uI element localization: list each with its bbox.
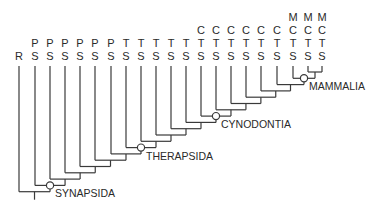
tip-label: P xyxy=(31,37,38,49)
tip-label: C xyxy=(212,24,220,36)
tip-label: M xyxy=(303,11,312,23)
tip-label: T xyxy=(183,37,190,49)
tip-label: T xyxy=(258,37,265,49)
tip-label: S xyxy=(227,50,234,62)
tip-label: S xyxy=(289,50,296,62)
tip-label: C xyxy=(318,24,326,36)
clade-label-synapsida: SYNAPSIDA xyxy=(55,187,115,199)
tip-label: T xyxy=(198,37,205,49)
tip-label: T xyxy=(290,37,297,49)
tip-label: T xyxy=(123,37,130,49)
tip-label: P xyxy=(46,37,53,49)
clade-label-therapsida: THERAPSIDA xyxy=(146,150,213,162)
tip-label: S xyxy=(318,50,325,62)
tip-label: T xyxy=(243,37,250,49)
tip-label: C xyxy=(304,24,312,36)
tip-label: T xyxy=(168,37,175,49)
tip-label: C xyxy=(242,24,250,36)
tip-label: M xyxy=(288,11,297,23)
cladogram: RPSPSPSPSPSPSTSTSTSTSTSCTSCTSCTSCTSCTSCT… xyxy=(0,0,380,214)
tip-label: T xyxy=(305,37,312,49)
tip-label: S xyxy=(61,50,68,62)
tip-label: S xyxy=(167,50,174,62)
tip-label: R xyxy=(15,50,23,62)
tip-label: C xyxy=(273,24,281,36)
tip-label: S xyxy=(304,50,311,62)
tip-label: S xyxy=(257,50,264,62)
tip-label: T xyxy=(274,37,281,49)
clade-node-marker xyxy=(46,182,53,189)
tip-label: P xyxy=(107,37,114,49)
tree-branches xyxy=(19,66,322,200)
tip-label: S xyxy=(137,50,144,62)
tip-label: T xyxy=(153,37,160,49)
tip-label: S xyxy=(122,50,129,62)
tip-label: S xyxy=(212,50,219,62)
tip-label: S xyxy=(76,50,83,62)
tip-label: S xyxy=(242,50,249,62)
tip-label: S xyxy=(46,50,53,62)
tip-label: C xyxy=(227,24,235,36)
tip-label: S xyxy=(152,50,159,62)
clade-node-marker xyxy=(137,144,144,151)
tip-label: C xyxy=(289,24,297,36)
tip-label: P xyxy=(91,37,98,49)
clade-label-cynodontia: CYNODONTIA xyxy=(221,118,291,130)
tip-labels: RPSPSPSPSPSPSTSTSTSTSTSCTSCTSCTSCTSCTSCT… xyxy=(15,11,327,62)
tip-label: S xyxy=(91,50,98,62)
clade-node-marker xyxy=(212,113,219,120)
tip-label: P xyxy=(76,37,83,49)
tip-label: S xyxy=(107,50,114,62)
tip-label: T xyxy=(138,37,145,49)
tip-label: S xyxy=(197,50,204,62)
tip-label: M xyxy=(317,11,326,23)
tip-label: T xyxy=(213,37,220,49)
clade-node-marker xyxy=(300,75,307,82)
tip-label: C xyxy=(257,24,265,36)
clade-label-mammalia: MAMMALIA xyxy=(309,80,365,92)
tip-label: T xyxy=(228,37,235,49)
tip-label: S xyxy=(182,50,189,62)
tip-label: P xyxy=(61,37,68,49)
clade-labels: SYNAPSIDATHERAPSIDACYNODONTIAMAMMALIA xyxy=(46,75,365,200)
tip-label: S xyxy=(31,50,38,62)
tip-label: T xyxy=(319,37,326,49)
tip-label: C xyxy=(197,24,205,36)
tip-label: S xyxy=(273,50,280,62)
